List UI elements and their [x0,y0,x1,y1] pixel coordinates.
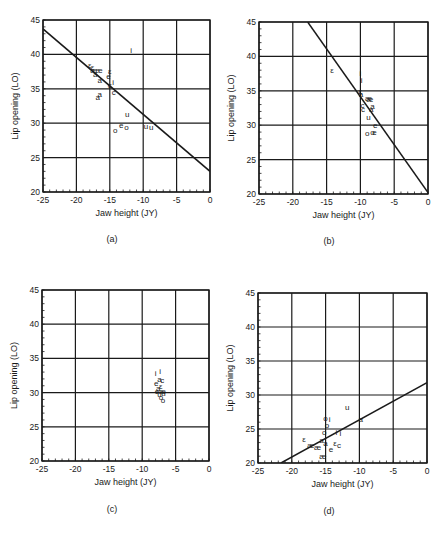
grid-lines [42,290,209,461]
regression-line [308,22,428,193]
panel-caption: (b) [324,236,335,246]
y-tick-label: 20 [30,456,40,466]
y-tick-label: 25 [247,155,257,165]
minor-ticks [42,290,209,461]
data-point-symbol: o [161,396,166,405]
data-point-symbol: u [366,113,370,122]
y-tick-labels: 202530354045 [247,17,257,199]
data-point-symbol: u [125,110,129,119]
y-tick-label: 35 [247,86,257,96]
y-tick-labels: 202530354045 [31,15,41,197]
y-tick-label: 45 [246,288,256,298]
plot-frame [43,20,210,192]
regression-line [43,29,210,171]
x-tick-label: 0 [425,466,430,476]
minor-ticks [43,20,210,192]
data-point-symbol: a [359,90,364,99]
data-point-symbol: c [337,441,341,450]
y-tick-label: 45 [30,285,40,295]
y-tick-label: 30 [246,390,256,400]
minor-ticks [259,22,428,194]
data-point-symbol: a [359,415,364,424]
plot-frame [259,22,428,194]
data-point-symbol: e [329,445,334,454]
minor-ticks [258,293,427,463]
x-tick-label: -5 [389,466,397,476]
x-tick-label: -20 [286,466,299,476]
data-point-symbol: e [106,72,111,81]
data-point-symbol: e [372,128,377,137]
data-points: uoioaoiiεææaaεceæ [302,403,363,461]
y-tick-label: 20 [247,189,257,199]
y-tick-label: 40 [30,319,40,329]
grid-lines [258,293,427,463]
y-tick-labels: 202530354045 [30,285,40,466]
x-tick-label: -5 [173,195,181,205]
data-point-symbol: c [112,88,116,97]
x-tick-label: -15 [320,197,333,207]
x-axis-label: Jaw height (JY) [311,479,373,489]
y-tick-label: 30 [30,388,40,398]
data-point-symbol: i [112,78,114,87]
x-tick-label: -10 [137,195,150,205]
grid-lines [259,22,428,194]
x-tick-label: -15 [103,464,116,474]
data-point-symbol: u [144,122,148,131]
data-point-symbol: c [361,105,365,114]
data-point-symbol: ε [330,66,334,75]
data-point-symbol: a [323,439,328,448]
data-points: εiiεaææccaaueoeo [330,66,378,138]
y-tick-label: 40 [31,49,41,59]
y-tick-label: 35 [31,84,41,94]
data-point-symbol: u [345,403,349,412]
x-tick-label: -10 [353,466,366,476]
x-tick-label: -10 [136,464,149,474]
x-tick-label: -20 [69,464,82,474]
y-tick-label: 20 [31,187,41,197]
y-tick-label: 45 [31,15,41,25]
y-tick-label: 20 [246,458,256,468]
plot-frame [42,290,209,461]
y-tick-label: 25 [31,153,41,163]
chart-panel-c: -25-20-15-10-50202530354045Jaw height (J… [9,285,212,514]
x-axis-label: Jaw height (JY) [95,208,157,218]
data-point-symbol: a [98,76,103,85]
data-point-symbol: e [119,121,124,130]
y-tick-label: 30 [31,118,41,128]
x-tick-label: -20 [287,197,300,207]
chart-panel-a: -25-20-15-10-50202530354045Jaw height (J… [10,15,213,244]
x-tick-label: -15 [319,466,332,476]
y-tick-label: 40 [246,322,256,332]
x-tick-labels: -25-20-15-10-50 [36,464,212,474]
data-points: iiaceεaeæuuoo [154,367,166,405]
y-tick-label: 45 [247,17,257,27]
y-tick-label: 40 [247,51,257,61]
panel-caption: (a) [107,234,118,244]
data-point-symbol: æ [319,452,326,461]
data-point-symbol: a [98,90,103,99]
x-tick-labels: -25-20-15-10-50 [252,466,430,476]
plot-frame [258,293,427,463]
grid-lines [43,20,210,192]
chart-panel-d: -25-20-15-10-50202530354045Jaw height (J… [225,288,430,516]
y-tick-label: 35 [30,353,40,363]
x-tick-label: 0 [208,195,213,205]
x-axis-label: Jaw height (JY) [312,210,374,220]
data-point-symbol: i [336,428,338,437]
y-axis-label: Lip opening (LO) [225,344,235,411]
x-tick-label: -5 [172,464,180,474]
x-tick-label: 0 [207,464,212,474]
scatter-figure: -25-20-15-10-50202530354045Jaw height (J… [0,0,443,535]
figure-container: -25-20-15-10-50202530354045Jaw height (J… [0,0,443,535]
data-point-symbol: u [149,123,153,132]
y-tick-label: 30 [247,120,257,130]
x-tick-label: -15 [104,195,117,205]
x-tick-label: -20 [70,195,83,205]
data-point-symbol: o [124,123,129,132]
x-tick-label: -5 [390,197,398,207]
y-axis-label: Lip opening (LO) [226,74,236,141]
chart-panel-b: -25-20-15-10-50202530354045Jaw height (J… [226,17,431,246]
y-tick-labels: 202530354045 [246,288,256,468]
y-tick-label: 25 [246,424,256,434]
x-tick-label: -10 [354,197,367,207]
